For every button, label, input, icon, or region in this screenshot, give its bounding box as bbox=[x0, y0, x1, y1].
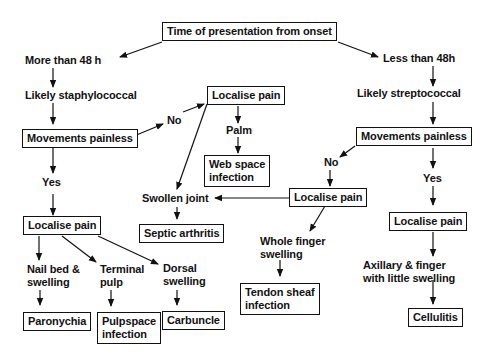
node-label: Carbuncle bbox=[167, 314, 220, 326]
node-web-space-infection: Web space infection bbox=[204, 155, 270, 187]
node-label-line2: swelling bbox=[27, 276, 80, 289]
node-label: Localise pain bbox=[212, 89, 280, 101]
node-label-line1: Dorsal bbox=[163, 262, 206, 275]
node-label-line1: Terminal bbox=[100, 263, 144, 276]
edge-label-no-right: No bbox=[324, 156, 338, 169]
node-pulpspace-infection: Pulpspace infection bbox=[97, 312, 161, 344]
node-label: Localise pain bbox=[28, 219, 96, 231]
node-label-line1: Tendon sheaf bbox=[245, 286, 315, 299]
edge-label-yes-right: Yes bbox=[423, 172, 442, 185]
node-likely-streptococcal: Likely streptococcal bbox=[357, 87, 461, 100]
node-label: No bbox=[167, 114, 181, 126]
node-label-line2: infection bbox=[245, 299, 315, 312]
node-label: Yes bbox=[423, 172, 442, 184]
node-more-than-48h: More than 48 h bbox=[25, 54, 101, 67]
node-likely-staphylococcal: Likely staphylococcal bbox=[25, 89, 137, 102]
node-whole-finger-swelling: Whole finger swelling bbox=[260, 235, 325, 261]
node-label: Palm bbox=[226, 124, 252, 136]
node-label: Less than 48h bbox=[383, 52, 455, 64]
node-label: Swollen joint bbox=[142, 192, 209, 204]
node-movements-painless-right: Movements painless bbox=[356, 127, 472, 146]
node-less-than-48h: Less than 48h bbox=[383, 52, 455, 65]
node-label: Likely staphylococcal bbox=[25, 89, 137, 101]
node-terminal-pulp: Terminal pulp bbox=[100, 263, 144, 289]
node-label: Likely streptococcal bbox=[357, 87, 461, 99]
flowchart-canvas: Time of presentation from onset More tha… bbox=[0, 0, 485, 357]
node-label: Septic arthritis bbox=[144, 227, 219, 239]
edge-label-yes-left: Yes bbox=[42, 176, 61, 189]
node-tendon-sheaf-infection: Tendon sheaf infection bbox=[240, 283, 320, 315]
node-label-line2: swelling bbox=[260, 248, 325, 261]
node-axillary-finger-little-swelling: Axillary & finger with little swelling bbox=[363, 259, 455, 285]
node-paronychia: Paronychia bbox=[23, 312, 91, 331]
node-label: Paronychia bbox=[28, 315, 86, 327]
node-label-line1: Pulpspace bbox=[102, 315, 156, 328]
root-node-time-of-presentation: Time of presentation from onset bbox=[162, 22, 337, 41]
node-carbuncle: Carbuncle bbox=[162, 311, 225, 330]
node-localise-pain-center: Localise pain bbox=[289, 188, 367, 207]
node-swollen-joint: Swollen joint bbox=[142, 192, 209, 205]
node-localise-pain-left: Localise pain bbox=[23, 216, 101, 235]
node-label: No bbox=[324, 156, 338, 168]
node-label: Movements painless bbox=[27, 132, 133, 144]
node-dorsal-swelling: Dorsal swelling bbox=[163, 262, 206, 288]
node-localise-pain-middle: Localise pain bbox=[207, 86, 285, 105]
node-movements-painless-left: Movements painless bbox=[22, 129, 138, 148]
node-septic-arthritis: Septic arthritis bbox=[139, 224, 224, 243]
node-label: More than 48 h bbox=[25, 54, 101, 66]
node-label-line2: swelling bbox=[163, 275, 206, 288]
node-label-line2: pulp bbox=[100, 276, 144, 289]
root-node-label: Time of presentation from onset bbox=[167, 25, 332, 37]
node-label: Yes bbox=[42, 176, 61, 188]
node-label-line1: Axillary & finger bbox=[363, 259, 455, 272]
node-label-line2: infection bbox=[209, 171, 265, 184]
node-label-line2: with little swelling bbox=[363, 272, 455, 285]
node-label: Localise pain bbox=[394, 215, 462, 227]
node-label-line1: Whole finger bbox=[260, 235, 325, 248]
node-label-line1: Nail bed & bbox=[27, 263, 80, 276]
node-localise-pain-right: Localise pain bbox=[389, 212, 467, 231]
node-label: Localise pain bbox=[294, 191, 362, 203]
node-label-line1: Web space bbox=[209, 158, 265, 171]
node-label-line2: infection bbox=[102, 328, 156, 341]
node-label: Movements painless bbox=[361, 130, 467, 142]
node-palm: Palm bbox=[226, 124, 252, 137]
node-nail-bed-swelling: Nail bed & swelling bbox=[27, 263, 80, 289]
edge-label-no-left: No bbox=[167, 114, 181, 127]
node-label: Cellulitis bbox=[413, 311, 458, 323]
node-cellulitis: Cellulitis bbox=[408, 308, 463, 327]
